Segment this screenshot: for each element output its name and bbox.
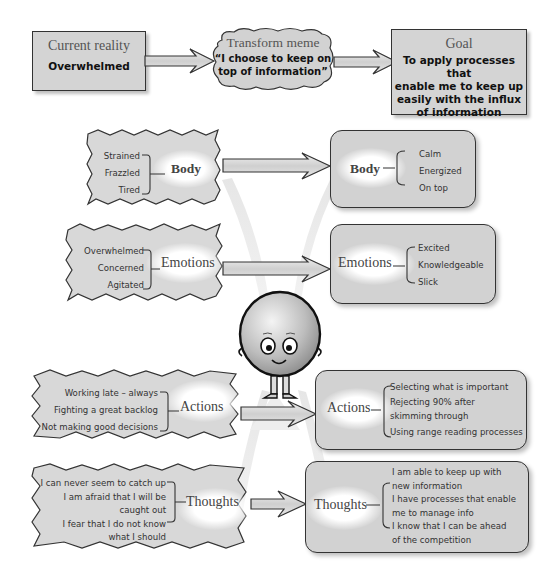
transform-meme-title: Transform meme [208,35,338,51]
current-emotions-label: Emotions [161,255,215,271]
list-item: Excited [418,240,484,257]
arrow-icon [250,490,308,518]
list-item: I am afraid that I will be [40,491,166,505]
list-item: Frazzled [96,165,140,182]
bracket-icon [393,242,417,292]
desired-body-list: Calm Energized On top [419,146,462,197]
current-actions-list: Working late – always Fighting a great b… [38,385,158,436]
list-item: skimming through [390,409,523,423]
list-item: new information [392,480,516,494]
arrow-icon [240,400,318,428]
current-thoughts-label: Thoughts [186,494,239,510]
desired-body-label: Body [350,161,380,177]
list-item: of the competition [392,534,516,548]
desired-thoughts-label: Thoughts [314,497,367,513]
bracket-icon [166,478,188,528]
list-item: I am able to keep up with [392,466,516,480]
bracket-icon [142,244,162,294]
list-item: Strained [96,148,140,165]
transform-meme-line1: “I choose to keep on [208,52,338,65]
list-item: Energized [419,163,462,180]
current-reality-title: Current reality [33,38,145,54]
list-item: Not making good decisions [38,419,158,436]
current-body-label: Body [171,161,201,177]
list-item: Working late – always [38,385,158,402]
arrow-icon [222,152,332,180]
list-item: Fighting a great backlog [38,402,158,419]
transform-meme-line2: top of information” [208,65,338,78]
goal-line: To apply processes that [392,54,526,80]
list-item: Using range reading processes [390,425,523,439]
list-item: Rejecting 90% after [390,395,523,409]
bracket-icon [383,148,407,198]
list-item: Tired [96,182,140,199]
list-item: Calm [419,146,462,163]
list-item: me to manage info [392,507,516,521]
list-item: Agitated [76,277,144,294]
list-item: I have processes that enable [392,493,516,507]
current-reality-value: Overwhelmed [33,60,145,73]
goal-line: of information [392,106,526,119]
list-item: caught out [40,504,166,518]
arrow-icon [222,255,332,283]
current-reality-box: Current reality Overwhelmed [32,31,146,91]
list-item: Slick [418,274,484,291]
bracket-icon [159,386,181,436]
desired-thoughts-list: I am able to keep up with new informatio… [392,466,516,547]
desired-actions-list: Selecting what is important Rejecting 90… [390,380,523,439]
list-item: Knowledgeable [418,257,484,274]
list-item: Overwhelmed [76,243,144,260]
bracket-icon [366,480,394,540]
goal-line: enable me to keep up [392,80,526,93]
list-item: I fear that I do not know [40,518,166,532]
goal-line: easily with the influx [392,93,526,106]
goal-box: Goal To apply processes that enable me t… [391,29,527,115]
list-item: On top [419,180,462,197]
list-item: Concerned [76,260,144,277]
transform-meme-cloud: Transform meme “I choose to keep on top … [208,26,338,92]
list-item: what I should [40,531,166,545]
list-item: I can never seem to catch up [40,477,166,491]
desired-emotions-label: Emotions [338,255,392,271]
goal-title: Goal [392,36,526,52]
bracket-icon [141,149,167,199]
arrow-icon [333,49,399,75]
list-item: I know that I can be ahead [392,520,516,534]
desired-emotions-list: Excited Knowledgeable Slick [418,240,484,291]
current-body-list: Strained Frazzled Tired [96,148,140,199]
list-item: Selecting what is important [390,380,523,394]
current-emotions-list: Overwhelmed Concerned Agitated [76,243,144,294]
arrow-icon [144,48,216,74]
desired-actions-label: Actions [327,400,371,416]
current-actions-label: Actions [180,399,224,415]
current-thoughts-list: I can never seem to catch up I am afraid… [40,477,166,545]
